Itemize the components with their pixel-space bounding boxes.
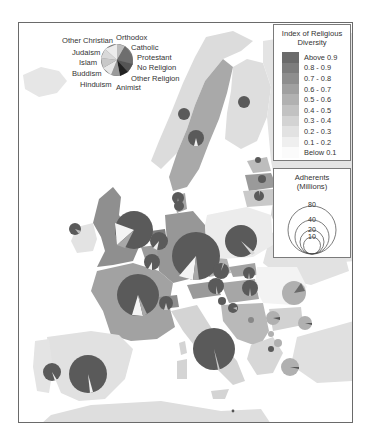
region-north-africa bbox=[41, 401, 271, 423]
legend-row: Above 0.9 bbox=[274, 52, 350, 63]
pie-lithuania bbox=[254, 191, 264, 201]
pie-key-label-islam: Islam bbox=[79, 58, 97, 67]
pie-belgium bbox=[144, 254, 160, 270]
legend-label: Below 0.1 bbox=[304, 148, 336, 157]
pie-slovakia bbox=[243, 267, 255, 279]
legend-label: 0.8 - 0.9 bbox=[304, 63, 331, 72]
pie-germany bbox=[172, 232, 220, 280]
pie-sweden bbox=[188, 130, 204, 146]
pie-denmark bbox=[174, 201, 184, 211]
legend-row: 0.3 - 0.4 bbox=[274, 116, 350, 127]
pie-poland bbox=[225, 225, 257, 257]
pie-key-label-hinduism: Hinduism bbox=[80, 80, 112, 89]
region-malta bbox=[232, 410, 235, 413]
adherents-legend-title-line2: (Millions) bbox=[274, 182, 350, 191]
legend-swatch bbox=[282, 52, 299, 63]
pie-czechia bbox=[213, 263, 229, 279]
legend-swatch bbox=[282, 84, 299, 95]
legend-swatch bbox=[282, 137, 299, 148]
diversity-legend-title: Index of Religious Diversity bbox=[274, 29, 350, 47]
adherents-legend-title: Adherents (Millions) bbox=[274, 173, 350, 191]
adherents-value-40: 40 bbox=[308, 216, 316, 223]
pie-united-kingdom bbox=[115, 211, 153, 249]
pie-ireland bbox=[69, 223, 81, 235]
adherents-value-10: 10 bbox=[308, 233, 316, 240]
pie-norway-north bbox=[178, 108, 190, 120]
pie-finland bbox=[238, 96, 250, 108]
region-iceland bbox=[23, 67, 67, 97]
pie-romania bbox=[282, 281, 306, 305]
legend-label: Above 0.9 bbox=[304, 53, 337, 62]
legend-swatch bbox=[282, 116, 299, 127]
legend-swatch bbox=[282, 73, 299, 84]
pie-netherlands bbox=[150, 232, 168, 250]
pie-macedonia bbox=[274, 339, 282, 347]
pie-greece bbox=[281, 358, 299, 376]
legend-label: 0.3 - 0.4 bbox=[304, 116, 331, 125]
pie-hungary bbox=[242, 280, 258, 296]
adherents-legend: Adherents (Millions) 80 40 20 10 bbox=[273, 168, 351, 258]
pie-serbia bbox=[266, 311, 280, 325]
pie-austria bbox=[208, 278, 224, 294]
pie-key-label-no-religion: No Religion bbox=[137, 63, 176, 72]
legend-row: 0.8 - 0.9 bbox=[274, 63, 350, 74]
diversity-legend-title-line1: Index of Religious bbox=[274, 29, 350, 38]
pie-key-label-catholic: Catholic bbox=[131, 43, 158, 52]
pie-key-label-other-religion: Other Religion bbox=[131, 74, 180, 83]
pie-croatia bbox=[228, 303, 238, 313]
pie-key-label-protestant: Protestant bbox=[137, 53, 172, 62]
pie-key-chart bbox=[101, 44, 133, 76]
legend-swatch bbox=[282, 147, 299, 158]
legend-row: Below 0.1 bbox=[274, 147, 350, 158]
pie-albania bbox=[268, 346, 274, 352]
diversity-legend-rows: Above 0.9 0.8 - 0.9 0.7 - 0.8 0.6 - 0.7 … bbox=[274, 52, 350, 158]
pie-bulgaria bbox=[298, 316, 312, 330]
legend-label: 0.6 - 0.7 bbox=[304, 85, 331, 94]
pie-france bbox=[117, 274, 159, 316]
region-sardinia bbox=[177, 359, 187, 379]
legend-row: 0.6 - 0.7 bbox=[274, 84, 350, 95]
adherents-value-80: 80 bbox=[308, 201, 316, 208]
pie-spain bbox=[69, 355, 107, 393]
legend-swatch bbox=[282, 105, 299, 116]
legend-label: 0.7 - 0.8 bbox=[304, 74, 331, 83]
pie-switzerland bbox=[159, 296, 173, 310]
pie-key-label-judaism: Judaism bbox=[72, 48, 100, 57]
legend-label: 0.4 - 0.5 bbox=[304, 106, 331, 115]
pie-italy bbox=[193, 328, 235, 370]
legend-swatch bbox=[282, 94, 299, 105]
legend-row: 0.4 - 0.5 bbox=[274, 105, 350, 116]
legend-label: 0.1 - 0.2 bbox=[304, 138, 331, 147]
adherents-value-20: 20 bbox=[308, 226, 316, 233]
legend-row: 0.1 - 0.2 bbox=[274, 137, 350, 148]
pie-slovenia bbox=[218, 297, 226, 305]
region-sicily bbox=[211, 389, 229, 399]
diversity-legend-title-line2: Diversity bbox=[274, 38, 350, 47]
legend-row: 0.7 - 0.8 bbox=[274, 73, 350, 84]
pie-key-label-other-christian: Other Christian bbox=[62, 36, 113, 45]
diversity-legend: Index of Religious Diversity Above 0.9 0… bbox=[273, 24, 351, 161]
pie-montenegro bbox=[268, 331, 274, 337]
adherents-legend-title-line1: Adherents bbox=[274, 173, 350, 182]
pie-portugal bbox=[43, 363, 61, 381]
legend-row: 0.2 - 0.3 bbox=[274, 126, 350, 137]
legend-row: 0.5 - 0.6 bbox=[274, 94, 350, 105]
pie-estonia bbox=[255, 157, 261, 163]
region-corsica bbox=[179, 341, 187, 355]
pie-key-label-animist: Animist bbox=[116, 83, 141, 92]
region-turkey bbox=[291, 321, 353, 383]
legend-swatch bbox=[282, 63, 299, 74]
legend-swatch bbox=[282, 126, 299, 137]
legend-label: 0.5 - 0.6 bbox=[304, 95, 331, 104]
pie-latvia bbox=[258, 175, 266, 183]
legend-label: 0.2 - 0.3 bbox=[304, 127, 331, 136]
pie-key-label-orthodox: Orthodox bbox=[116, 33, 147, 42]
pie-bosnia bbox=[248, 317, 254, 323]
pie-key-label-buddism: Buddism bbox=[72, 69, 102, 78]
